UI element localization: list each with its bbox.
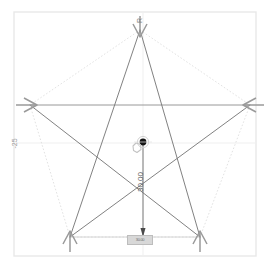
star-line-left-to-bottom-right[interactable]: [30, 105, 200, 237]
arrow-left-icon-right-vertex[interactable]: [243, 98, 264, 112]
sketch-canvas[interactable]: -25 R 30.00 30.00: [0, 0, 268, 270]
vertex-label-top: R: [136, 18, 143, 23]
axis-label-left: -25: [11, 138, 18, 148]
dimension-label-vertical[interactable]: 30.00: [137, 172, 145, 192]
construction-edge-top-left[interactable]: [30, 30, 140, 105]
grid-lines: [14, 12, 256, 256]
construction-edge-left-bottom[interactable]: [30, 105, 70, 237]
sketch-drawing[interactable]: [0, 0, 268, 270]
pentagon-construction-outline[interactable]: [30, 30, 250, 237]
canvas-frame: [14, 12, 256, 256]
arrow-right-icon-left-vertex[interactable]: [16, 98, 37, 112]
star-line-top-to-bottom-right[interactable]: [140, 30, 200, 237]
arrow-up-icon-bottom-left-vertex[interactable]: [63, 231, 77, 252]
star-line-right-to-bottom-left[interactable]: [70, 105, 250, 237]
construction-edge-right-bottom[interactable]: [200, 105, 250, 237]
dimension-label-bottom-box[interactable]: 30.00: [127, 235, 153, 245]
star-line-top-to-bottom-left[interactable]: [70, 30, 140, 237]
center-coincident-constraint-icon[interactable]: [133, 143, 141, 153]
arrow-up-icon-bottom-right-vertex[interactable]: [193, 231, 207, 252]
pentagram-star[interactable]: [30, 30, 250, 237]
construction-edge-top-right[interactable]: [140, 30, 250, 105]
